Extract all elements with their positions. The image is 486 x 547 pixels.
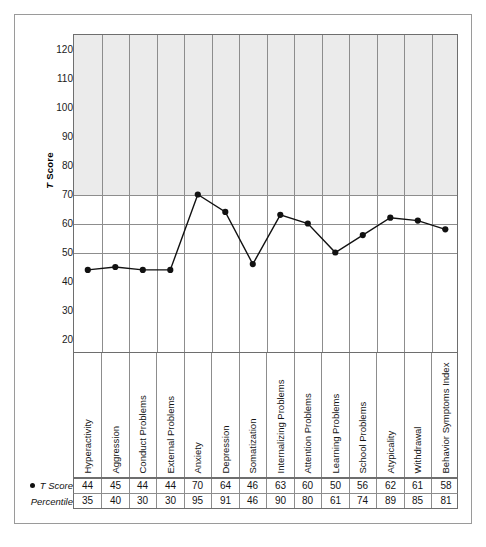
figure-frame: T Score 1201101009080706050403020 Hypera…: [14, 14, 472, 524]
y-tick-100: 100: [29, 101, 73, 112]
percentile-value: 95: [184, 494, 212, 509]
tscore-value: 62: [377, 479, 405, 493]
percentile-row-label: Percentile: [29, 494, 73, 510]
tscore-value: 56: [349, 479, 377, 493]
tscore-value: 58: [432, 479, 460, 493]
percentile-value: 46: [239, 494, 267, 509]
percentile-value: 40: [102, 494, 130, 509]
plot-area: [73, 34, 458, 353]
percentile-value: 61: [322, 494, 350, 509]
category-label: External Problems: [166, 395, 176, 473]
data-point: [140, 267, 146, 273]
data-point: [195, 191, 201, 197]
tscore-row-label-text: T Score: [40, 480, 73, 491]
category-label: Behavior Symptoms Index: [441, 362, 451, 473]
category-label: Somatization: [248, 418, 258, 473]
data-point: [222, 209, 228, 215]
series-marker-icon: [30, 483, 35, 488]
data-point: [112, 264, 118, 270]
tscore-value: 60: [294, 479, 322, 493]
category-label: Conduct Problems: [138, 395, 148, 473]
tscore-value: 45: [102, 479, 130, 493]
data-point: [167, 267, 173, 273]
y-tick-90: 90: [29, 130, 73, 141]
score-data-table: T Score Percentile 444544447064466360505…: [29, 478, 458, 509]
data-point: [85, 267, 91, 273]
percentile-value: 85: [404, 494, 432, 509]
category-cell: Conduct Problems: [129, 353, 157, 477]
category-cell: External Problems: [157, 353, 185, 477]
category-label: Learning Problems: [331, 393, 341, 473]
y-tick-70: 70: [29, 188, 73, 199]
y-tick-80: 80: [29, 159, 73, 170]
tscore-row-label: T Score: [29, 478, 73, 494]
category-cell: School Problems: [349, 353, 377, 477]
tscore-line-series: [74, 35, 459, 354]
category-cell: Internalizing Problems: [267, 353, 295, 477]
category-cell: Depression: [212, 353, 240, 477]
tscore-value: 50: [322, 479, 350, 493]
category-label: Depression: [221, 425, 231, 473]
y-tick-110: 110: [29, 72, 73, 83]
percentile-value-row: 3540303095914690806174898581: [73, 494, 458, 510]
tscore-value: 64: [212, 479, 240, 493]
data-point: [250, 261, 256, 267]
category-label: School Problems: [358, 401, 368, 473]
category-cell: Somatization: [239, 353, 267, 477]
category-cell: Attention Problems: [294, 353, 322, 477]
y-tick-40: 40: [29, 275, 73, 286]
tscore-value: 44: [74, 479, 102, 493]
percentile-value: 35: [74, 494, 102, 509]
percentile-value: 80: [294, 494, 322, 509]
category-label: Aggression: [111, 425, 121, 473]
category-cell: Atypicality: [377, 353, 405, 477]
tscore-value-row: 4445444470644663605056626158: [73, 478, 458, 494]
tscore-value: 61: [404, 479, 432, 493]
category-cell: Behavior Symptoms Index: [432, 353, 460, 477]
y-axis-tick-labels: 1201101009080706050403020: [29, 15, 73, 523]
tscore-value: 63: [267, 479, 295, 493]
category-cell: Anxiety: [184, 353, 212, 477]
data-point: [415, 218, 421, 224]
percentile-value: 91: [212, 494, 240, 509]
data-point: [277, 212, 283, 218]
data-point: [442, 226, 448, 232]
y-tick-20: 20: [29, 333, 73, 344]
tscore-value: 46: [239, 479, 267, 493]
category-cell: Aggression: [102, 353, 130, 477]
percentile-value: 30: [129, 494, 157, 509]
tscore-value: 44: [157, 479, 185, 493]
series-line: [88, 195, 446, 270]
y-tick-50: 50: [29, 246, 73, 257]
category-label: Atypicality: [386, 430, 396, 473]
percentile-value: 74: [349, 494, 377, 509]
category-cell: Learning Problems: [322, 353, 350, 477]
percentile-value: 89: [377, 494, 405, 509]
category-label: Anxiety: [193, 442, 203, 473]
data-point: [332, 249, 338, 255]
category-cell: Hyperactivity: [74, 353, 102, 477]
tscore-value: 44: [129, 479, 157, 493]
data-point: [360, 232, 366, 238]
category-label: Withdrawal: [413, 426, 423, 473]
data-point: [305, 220, 311, 226]
category-label: Hyperactivity: [83, 419, 93, 473]
y-tick-60: 60: [29, 217, 73, 228]
y-tick-120: 120: [29, 43, 73, 54]
category-label-band: HyperactivityAggressionConduct ProblemsE…: [73, 353, 458, 478]
percentile-value: 90: [267, 494, 295, 509]
category-cell: Withdrawal: [404, 353, 432, 477]
category-label: Internalizing Problems: [276, 379, 286, 473]
y-tick-30: 30: [29, 304, 73, 315]
percentile-value: 81: [432, 494, 460, 509]
category-label: Attention Problems: [303, 393, 313, 473]
data-point: [387, 215, 393, 221]
tscore-value: 70: [184, 479, 212, 493]
percentile-value: 30: [157, 494, 185, 509]
